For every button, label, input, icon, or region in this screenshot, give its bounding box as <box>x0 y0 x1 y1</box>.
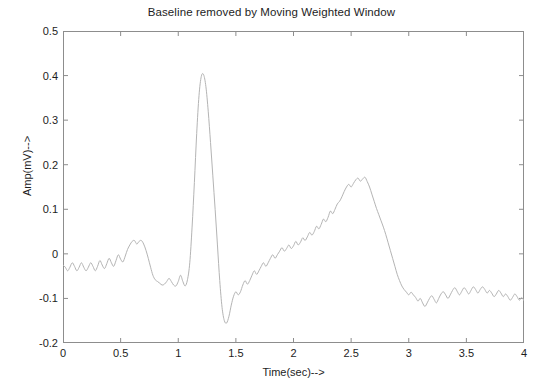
waveform-svg <box>63 31 524 343</box>
x-tick-label: 3 <box>389 347 429 359</box>
x-tick-label: 1 <box>158 347 198 359</box>
x-tick-label: 0 <box>43 347 83 359</box>
figure-canvas: Baseline removed by Moving Weighted Wind… <box>0 0 543 391</box>
y-tick-label: 0 <box>24 248 58 260</box>
x-tick-label: 4 <box>504 347 543 359</box>
chart-title: Baseline removed by Moving Weighted Wind… <box>0 6 543 18</box>
x-tick-label: 3.5 <box>446 347 486 359</box>
x-axis-tick-labels: 00.511.522.533.54 <box>63 347 524 365</box>
y-axis-label: Amp(mV)--> <box>21 106 33 226</box>
x-axis-label: Time(sec)--> <box>63 366 524 378</box>
y-tick-label: 0.5 <box>24 25 58 37</box>
x-tick-label: 2.5 <box>331 347 371 359</box>
y-tick-label: -0.1 <box>24 292 58 304</box>
y-tick-marks <box>63 32 524 343</box>
x-tick-marks <box>64 31 524 343</box>
x-tick-label: 1.5 <box>216 347 256 359</box>
x-tick-label: 0.5 <box>101 347 141 359</box>
plot-area <box>63 31 524 343</box>
x-tick-label: 2 <box>274 347 314 359</box>
y-tick-label: 0.4 <box>24 70 58 82</box>
ecg-waveform-line <box>63 74 524 324</box>
